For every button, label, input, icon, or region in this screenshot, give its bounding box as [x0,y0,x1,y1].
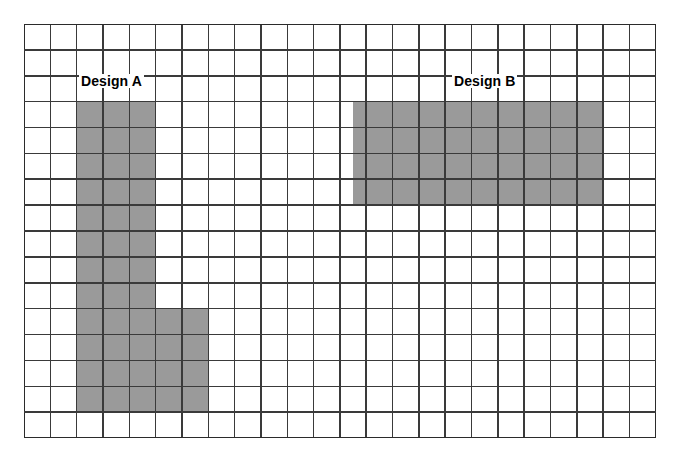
design-a-label: Design A [79,74,144,88]
design-b-label: Design B [452,74,517,88]
figure-root: Design A Design B [0,0,682,459]
